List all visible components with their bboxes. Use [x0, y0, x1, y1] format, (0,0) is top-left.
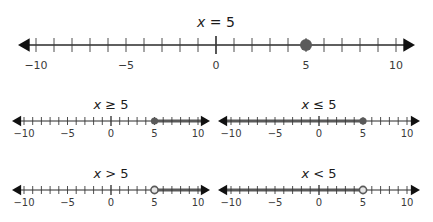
- open-point-marker: [359, 186, 366, 193]
- tick-label: −5: [268, 197, 283, 208]
- tick-label: −10: [24, 59, 47, 72]
- number-line-x-equals-5: −10−50510x = 5: [18, 14, 415, 72]
- tick-label: 5: [360, 128, 366, 139]
- tick-label: 0: [316, 128, 322, 139]
- tick-label: −10: [13, 197, 34, 208]
- number-line-x-gt-5: −10−50510x > 5: [12, 166, 210, 208]
- tick-label: 10: [401, 197, 414, 208]
- left-arrow-icon: [18, 38, 30, 52]
- tick-label: −5: [118, 59, 134, 72]
- tick-label: −5: [268, 128, 283, 139]
- tick-label: 0: [213, 59, 220, 72]
- relation-label: ≤ 5: [309, 97, 336, 112]
- inequality-title: x < 5: [300, 166, 336, 181]
- variable-label: x: [92, 97, 101, 112]
- number-line-x-leq-5: −10−50510x ≤ 5: [218, 97, 420, 139]
- tick-label: 0: [108, 197, 114, 208]
- tick-label: 10: [192, 197, 205, 208]
- left-arrow-icon: [12, 185, 21, 196]
- variable-label: x: [300, 166, 309, 181]
- tick-label: −10: [220, 197, 241, 208]
- right-arrow-icon: [201, 185, 210, 196]
- variable-label: x: [92, 166, 101, 181]
- tick-label: −5: [60, 128, 75, 139]
- relation-label: = 5: [205, 14, 235, 30]
- closed-point-marker: [300, 39, 312, 51]
- left-arrow-icon: [218, 185, 227, 196]
- inequality-title: x ≤ 5: [300, 97, 336, 112]
- left-arrow-icon: [12, 116, 21, 127]
- relation-label: > 5: [101, 166, 128, 181]
- variable-label: x: [300, 97, 309, 112]
- tick-label: 5: [360, 197, 366, 208]
- tick-label: 10: [192, 128, 205, 139]
- open-point-marker: [151, 186, 158, 193]
- tick-label: 0: [108, 128, 114, 139]
- inequality-title: x ≥ 5: [92, 97, 128, 112]
- tick-label: −10: [13, 128, 34, 139]
- tick-label: 10: [401, 128, 414, 139]
- right-arrow-icon: [411, 185, 420, 196]
- inequality-title: x > 5: [92, 166, 128, 181]
- number-line-x-geq-5: −10−50510x ≥ 5: [12, 97, 210, 139]
- number-line-diagram: −10−50510x = 5 −10−50510x ≥ 5 −10−50510x…: [0, 0, 433, 222]
- right-arrow-icon: [403, 38, 415, 52]
- tick-label: −10: [220, 128, 241, 139]
- tick-label: 5: [303, 59, 310, 72]
- relation-label: ≥ 5: [101, 97, 128, 112]
- left-arrow-icon: [218, 116, 227, 127]
- closed-point-marker: [151, 117, 158, 124]
- tick-label: 10: [389, 59, 403, 72]
- tick-label: −5: [60, 197, 75, 208]
- closed-point-marker: [359, 117, 366, 124]
- number-line-x-lt-5: −10−50510x < 5: [218, 166, 420, 208]
- tick-label: 5: [151, 197, 157, 208]
- right-arrow-icon: [411, 116, 420, 127]
- inequality-title: x = 5: [196, 14, 235, 30]
- tick-label: 0: [316, 197, 322, 208]
- relation-label: < 5: [309, 166, 336, 181]
- tick-label: 5: [151, 128, 157, 139]
- right-arrow-icon: [201, 116, 210, 127]
